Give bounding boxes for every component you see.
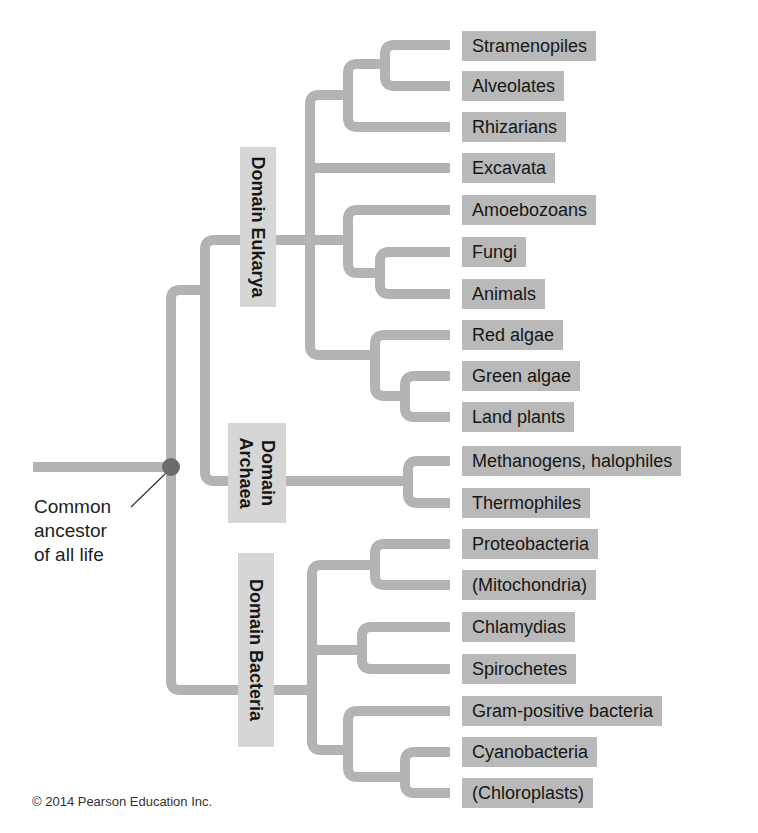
proteo-split (375, 544, 450, 585)
leaf-excavata: Excavata (462, 153, 555, 183)
leaf-red-algae: Red algae (462, 320, 563, 350)
ancestor-pointer-line (131, 474, 165, 507)
chlamydia-spirochete-split (362, 627, 450, 669)
leaf-amoebozoans: Amoebozoans (462, 195, 596, 225)
fungi-animals-split (380, 252, 450, 294)
leaf-rhizarians: Rhizarians (462, 112, 566, 142)
green-plants-split (405, 376, 450, 417)
leaf-mitochondria: (Mitochondria) (462, 570, 596, 600)
leaf-green-algae: Green algae (462, 361, 580, 391)
common-ancestor-node (162, 458, 180, 476)
domain-bacteria-label: Domain Bacteria (238, 553, 274, 747)
eukarya-split (310, 95, 375, 355)
domain-eukarya-label: Domain Eukarya (240, 147, 276, 307)
leaf-stramenopiles: Stramenopiles (462, 31, 596, 61)
leaf-alveolates: Alveolates (462, 71, 564, 101)
domain-archaea-label: Domain Archaea (228, 423, 286, 523)
copyright-notice: © 2014 Pearson Education Inc. (32, 794, 212, 809)
leaf-cyanobacteria: Cyanobacteria (462, 737, 597, 767)
sar-split (348, 64, 450, 127)
leaf-gram-positive-bacteria: Gram-positive bacteria (462, 696, 662, 726)
common-ancestor-label: Common ancestor of all life (34, 495, 111, 567)
leaf-proteobacteria: Proteobacteria (462, 529, 598, 559)
leaf-methanogens-halophiles: Methanogens, halophiles (462, 446, 681, 476)
archaeplastida-split (375, 335, 450, 396)
leaf-spirochetes: Spirochetes (462, 654, 576, 684)
leaf-thermophiles: Thermophiles (462, 488, 590, 518)
unikont-split (348, 210, 450, 273)
leaf-land-plants: Land plants (462, 402, 574, 432)
leaf-animals: Animals (462, 279, 545, 309)
archaea-split (408, 461, 450, 503)
cyano-split (405, 752, 450, 793)
stramenopiles-alveolates-split (385, 45, 450, 86)
leaf-chloroplasts: (Chloroplasts) (462, 778, 593, 808)
leaf-fungi: Fungi (462, 237, 526, 267)
leaf-chlamydias: Chlamydias (462, 612, 575, 642)
grampos-split (348, 711, 450, 777)
